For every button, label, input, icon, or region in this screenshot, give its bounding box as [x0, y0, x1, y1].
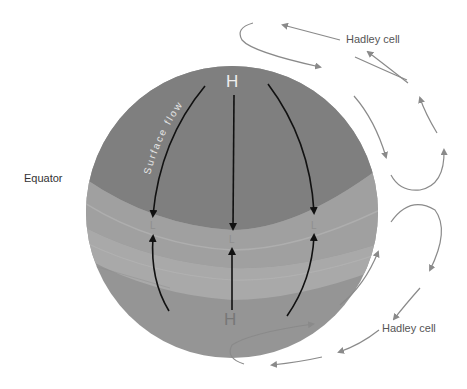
low-pressure-right: L [311, 220, 317, 231]
low-pressure-left: L [150, 220, 156, 231]
high-pressure-south: H [224, 310, 236, 330]
hadley-cell-label-upper: Hadley cell [346, 33, 400, 45]
high-pressure-north: H [226, 72, 238, 92]
hadley-cell-label-lower: Hadley cell [382, 322, 436, 334]
surface-flow-arrow-center-north [233, 95, 234, 228]
low-pressure-center: L [229, 234, 235, 245]
equator-label: Equator [24, 172, 63, 184]
